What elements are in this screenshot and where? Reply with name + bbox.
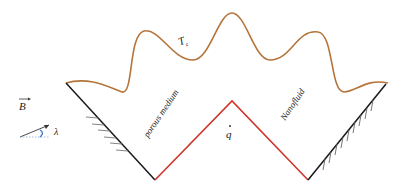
svg-text:q: q bbox=[226, 128, 232, 140]
left-hatching bbox=[86, 117, 128, 151]
nanofluid-label: Nanofluid bbox=[278, 86, 307, 123]
magnetic-field-label: B bbox=[19, 98, 31, 113]
svg-text:λ: λ bbox=[53, 126, 59, 137]
field-direction-arrow: λ bbox=[20, 125, 59, 137]
right-hatching bbox=[323, 100, 373, 170]
cavity-diagram: Tc B λ porous medium Nanofluid q bbox=[0, 0, 418, 193]
right-insulated-wall bbox=[308, 84, 386, 180]
porous-medium-label: porous medium bbox=[141, 87, 181, 140]
dot-accent-icon bbox=[229, 125, 231, 127]
angle-arc-icon bbox=[40, 130, 43, 137]
heat-flux-label: q bbox=[226, 125, 232, 140]
wavy-top-wall bbox=[66, 13, 388, 92]
top-temperature-label: Tc bbox=[176, 33, 189, 49]
svg-text:B: B bbox=[19, 100, 26, 112]
